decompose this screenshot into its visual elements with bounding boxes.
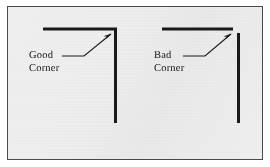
panel-good-corner [43,28,117,123]
bad-corner-leader-line [183,34,231,56]
good-corner-label: Good Corner [29,50,59,75]
good-corner-label-line2: Corner [29,63,59,76]
bad-corner-label-line1: Bad [154,50,184,63]
panel-bad-corner [162,29,239,123]
figure-root: Good Corner Bad Corner [0,0,270,167]
bad-corner-label: Bad Corner [154,50,184,75]
corner-diagram-svg [8,7,263,160]
bad-corner-label-line2: Corner [154,63,184,76]
good-corner-leader-line [62,34,111,56]
good-corner-label-line1: Good [29,50,59,63]
diagram-plate [7,6,263,160]
